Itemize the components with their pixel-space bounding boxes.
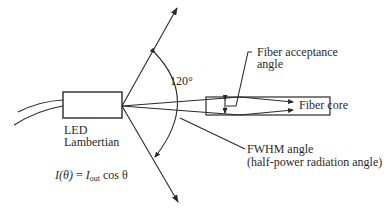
lower-radiation-arrow — [122, 106, 178, 202]
led-lead-upper — [18, 100, 63, 112]
equation-rhs-cos: cos θ — [103, 168, 128, 182]
equation-lhs: I(θ) — [55, 168, 73, 182]
equation-rhs-subscript: out — [90, 174, 100, 183]
intensity-equation: I(θ) = Iout cos θ — [55, 168, 128, 183]
upper-radiation-arrow — [122, 8, 177, 106]
fiber-ray-upper — [240, 97, 293, 102]
fiber-acceptance-label-line2: angle — [257, 58, 283, 71]
ray-lower — [122, 106, 240, 115]
equation-equals: = — [76, 168, 83, 182]
fwhm-leader — [180, 118, 245, 149]
ray-upper — [122, 97, 240, 106]
led-box — [63, 92, 122, 118]
led-lead-lower — [14, 106, 63, 125]
fiber-ray-lower — [240, 110, 293, 115]
angle-label: 120° — [170, 75, 193, 88]
fwhm-label-line2: (half-power radiation angle) — [247, 156, 382, 169]
led-label-line2: Lambertian — [64, 136, 119, 149]
angle-arc — [155, 53, 178, 157]
fiber-core-label: Fiber core — [299, 99, 348, 112]
